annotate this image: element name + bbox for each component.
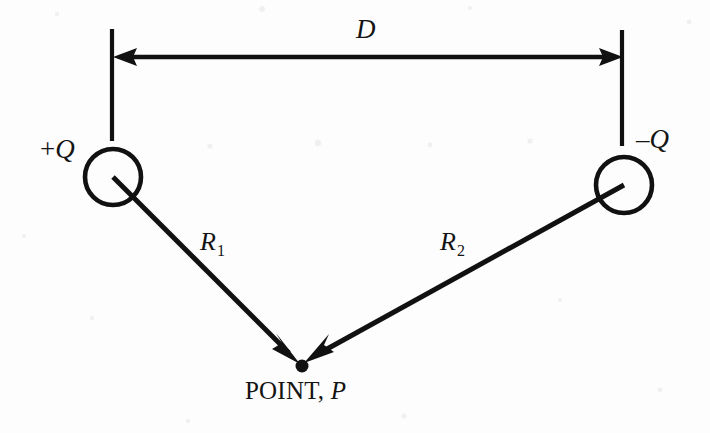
ray-r1-line bbox=[113, 177, 289, 353]
distance-base-r1: R bbox=[200, 227, 216, 256]
charge-sign-negative: – bbox=[636, 124, 650, 154]
figure-canvas: +Q –Q D R1 R2 POINT, P bbox=[0, 0, 710, 433]
point-p-symbol: P bbox=[331, 377, 346, 404]
charge-sign-positive: + bbox=[40, 134, 55, 164]
distance-base-r2: R bbox=[440, 227, 456, 256]
distance-sub-r1: 1 bbox=[217, 242, 225, 259]
point-p-label: POINT, P bbox=[245, 378, 346, 403]
distance-label-r2: R2 bbox=[440, 229, 464, 255]
point-p-marker bbox=[296, 360, 309, 373]
distance-label-r1: R1 bbox=[200, 229, 224, 255]
charge-symbol-negative: Q bbox=[650, 124, 670, 154]
charge-label-negative: –Q bbox=[636, 126, 669, 153]
separation-label-d: D bbox=[356, 16, 376, 43]
dipole-diagram bbox=[0, 0, 710, 433]
charge-label-positive: +Q bbox=[40, 136, 75, 163]
point-p-text: POINT, bbox=[245, 377, 324, 404]
distance-sub-r2: 2 bbox=[457, 242, 465, 259]
ray-r2-line bbox=[318, 185, 624, 354]
charge-symbol-positive: Q bbox=[55, 134, 75, 164]
